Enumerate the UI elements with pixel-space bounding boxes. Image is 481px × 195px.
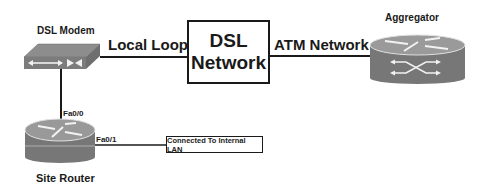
internal-lan-box: Connected To Internal LAN [166,136,263,153]
aggregator-label: Aggregator [385,12,439,23]
fa01-label: Fa0/1 [96,135,116,144]
atm-network-label: ATM Network [274,36,369,53]
dsl-network-diagram: DSL Modem Local Loop DSL Network ATM Net… [0,0,481,195]
dsl-modem-icon [24,44,100,69]
internal-lan-label: Connected To Internal LAN [167,136,262,154]
dsl-modem-label: DSL Modem [37,25,95,36]
aggregator-router-icon [370,35,465,84]
site-router-icon [25,119,95,163]
dsl-network-title-line1: DSL [210,30,248,52]
fa00-label: Fa0/0 [63,109,83,118]
local-loop-label: Local Loop [108,36,188,53]
site-router-label: Site Router [36,172,95,184]
dsl-network-title-line2: Network [191,52,266,74]
dsl-network-box: DSL Network [187,20,270,84]
